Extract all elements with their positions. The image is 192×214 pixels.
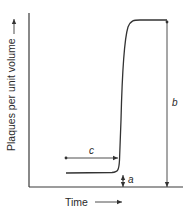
y-axis-label: Plaques per unit volume <box>5 19 17 151</box>
svg-text:Time: Time <box>65 196 88 208</box>
svg-text:Plaques per unit volume: Plaques per unit volume <box>5 38 17 151</box>
growth-curve-diagram: Plaques per unit volume Time c a b <box>0 0 192 214</box>
baseline-arrow: a <box>123 174 134 187</box>
growth-curve <box>66 20 167 173</box>
burst-size-arrow: b <box>167 22 178 187</box>
x-axis-label: Time <box>65 196 122 208</box>
label-b: b <box>172 97 178 108</box>
label-c: c <box>89 145 94 156</box>
label-a: a <box>128 174 134 185</box>
latent-period-arrow: c <box>66 145 118 158</box>
